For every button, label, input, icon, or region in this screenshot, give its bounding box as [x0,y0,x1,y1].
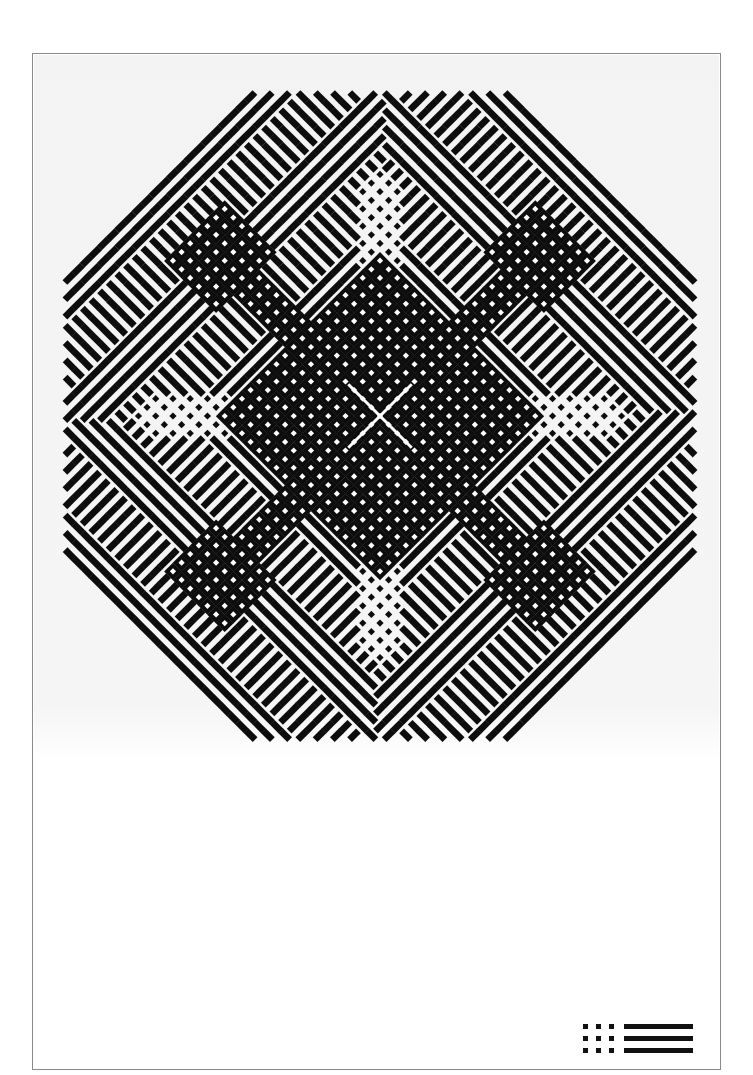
logo-dot [609,1036,614,1041]
logo-dot [596,1048,601,1053]
woven-pattern-artwork [0,0,753,1075]
logo-mark [583,1022,693,1054]
logo-dot [609,1048,614,1053]
logo-dot [583,1048,588,1053]
logo-dot [609,1024,614,1029]
logo-bar [624,1048,693,1053]
logo-bar [624,1024,693,1029]
logo-dot [583,1024,588,1029]
logo-dot [596,1036,601,1041]
logo-dot [596,1024,601,1029]
logo-dot [583,1036,588,1041]
logo-bar [624,1036,693,1041]
